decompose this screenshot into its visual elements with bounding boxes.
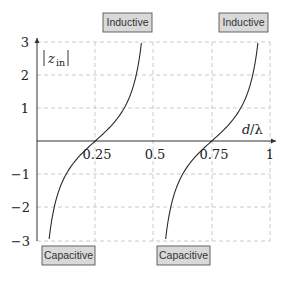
ytick-minus-2: −2 bbox=[11, 200, 30, 215]
x-axis-label: d /λ bbox=[242, 122, 263, 137]
svg-text:in: in bbox=[56, 57, 65, 68]
svg-text:Capacitive: Capacitive bbox=[159, 249, 208, 261]
capacitive-label-2: Capacitive bbox=[157, 246, 210, 265]
ytick-1: 1 bbox=[21, 101, 29, 116]
capacitive-label-1: Capacitive bbox=[42, 246, 95, 265]
svg-text:Inductive: Inductive bbox=[222, 16, 264, 28]
svg-text:Capacitive: Capacitive bbox=[44, 249, 93, 261]
xtick-0.5: 0.5 bbox=[145, 147, 166, 162]
svg-text:Inductive: Inductive bbox=[106, 16, 148, 28]
inductive-label-2: Inductive bbox=[219, 13, 268, 32]
ytick-3: 3 bbox=[21, 35, 29, 50]
svg-text:z: z bbox=[47, 51, 55, 66]
xtick-0.75: 0.75 bbox=[200, 147, 229, 162]
svg-text:/λ: /λ bbox=[250, 122, 263, 137]
y-axis-label: z in bbox=[44, 50, 68, 68]
inductive-label-1: Inductive bbox=[103, 13, 152, 32]
ytick-minus-1: −1 bbox=[11, 167, 30, 182]
impedance-chart: 3 2 1 −1 −2 −3 0.25 0.5 0.75 1 z in d /λ… bbox=[0, 0, 288, 282]
xtick-0.25: 0.25 bbox=[83, 147, 112, 162]
ytick-2: 2 bbox=[21, 68, 29, 83]
ytick-minus-3: −3 bbox=[11, 234, 30, 249]
xtick-1: 1 bbox=[266, 147, 274, 162]
